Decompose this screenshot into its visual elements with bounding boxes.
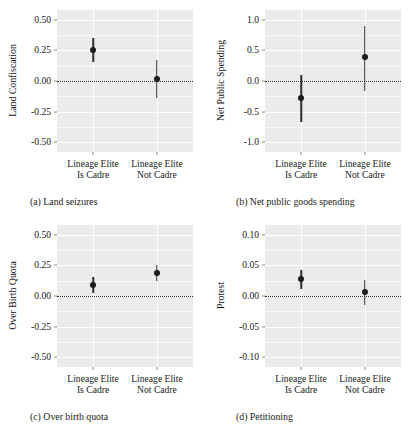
gridline-horizontal xyxy=(265,112,401,113)
y-axis-tick-label: 0.25 xyxy=(34,261,51,271)
gridline-horizontal xyxy=(57,235,193,236)
panel-background xyxy=(57,10,193,152)
y-axis-tick-label: 0.10 xyxy=(242,230,259,240)
y-axis-tick-label: -0.05 xyxy=(239,322,259,332)
plot-area-c: 0.500.250.00-0.25-0.50Over Birth QuotaLi… xyxy=(0,215,207,385)
x-axis-tick-label-2: Lineage EliteNot Cadre xyxy=(131,159,182,180)
x-axis-tick-label-line2: Is Cadre xyxy=(67,170,118,181)
y-axis-tick-mark xyxy=(54,296,57,297)
gridline-horizontal xyxy=(57,112,193,113)
x-axis-tick-label-2: Lineage EliteNot Cadre xyxy=(131,374,182,395)
gridline-horizontal xyxy=(265,327,401,328)
y-axis-tick-mark xyxy=(54,19,57,20)
panel-background xyxy=(265,10,401,152)
gridline-horizontal-minor xyxy=(265,250,401,251)
y-axis-tick-label: 0.0 xyxy=(247,76,259,86)
point-estimate-marker-1 xyxy=(298,95,304,101)
gridline-horizontal-minor xyxy=(57,342,193,343)
x-axis-tick-label-2: Lineage EliteNot Cadre xyxy=(339,374,390,395)
gridline-horizontal-minor xyxy=(265,281,401,282)
y-axis-tick-mark xyxy=(262,19,265,20)
figure-panel-grid: 0.500.250.00-0.25-0.50Land ConfiscationL… xyxy=(0,0,415,430)
y-axis-tick-label: -0.5 xyxy=(244,107,259,117)
y-axis-tick-mark xyxy=(54,111,57,112)
y-axis-tick-label: -0.10 xyxy=(239,352,259,362)
y-axis-tick-label: 0.5 xyxy=(247,46,259,56)
zero-reference-line xyxy=(265,296,401,297)
y-axis-tick-label: 0.00 xyxy=(242,291,259,301)
gridline-horizontal-minor xyxy=(57,35,193,36)
y-axis-title: Land Confiscation xyxy=(7,10,18,152)
x-axis-tick-label-line2: Not Cadre xyxy=(131,170,182,181)
x-axis-tick-label-line2: Not Cadre xyxy=(131,385,182,396)
plot-area-d: 0.100.050.00-0.05-0.10ProtestLineage Eli… xyxy=(208,215,415,385)
y-axis-tick-mark xyxy=(262,265,265,266)
panel-caption-d: (d) Petitioning xyxy=(236,411,293,422)
y-axis-tick-mark xyxy=(262,234,265,235)
y-axis-tick-mark xyxy=(54,50,57,51)
x-axis-tick-label-2: Lineage EliteNot Cadre xyxy=(339,159,390,180)
zero-reference-line xyxy=(57,81,193,82)
y-axis-tick-mark xyxy=(262,50,265,51)
y-axis-tick-mark xyxy=(54,142,57,143)
x-axis-tick-mark xyxy=(93,152,94,155)
gridline-horizontal xyxy=(57,50,193,51)
gridline-horizontal-minor xyxy=(57,281,193,282)
y-axis-tick-label: -0.50 xyxy=(31,137,51,147)
y-axis-tick-label: -1.0 xyxy=(244,137,259,147)
plot-area-a: 0.500.250.00-0.25-0.50Land ConfiscationL… xyxy=(0,0,207,170)
x-axis-tick-label-line2: Is Cadre xyxy=(67,385,118,396)
gridline-horizontal xyxy=(265,50,401,51)
chart-panel-c: 0.500.250.00-0.25-0.50Over Birth QuotaLi… xyxy=(0,215,207,430)
point-estimate-marker-2 xyxy=(362,289,368,295)
x-axis-tick-mark xyxy=(364,367,365,370)
point-estimate-marker-2 xyxy=(362,54,368,60)
x-axis-tick-label-1: Lineage EliteIs Cadre xyxy=(275,374,326,395)
y-axis-tick-label: 0.05 xyxy=(242,261,259,271)
zero-reference-line xyxy=(57,296,193,297)
y-axis-tick-mark xyxy=(54,357,57,358)
y-axis-tick-mark xyxy=(262,326,265,327)
x-axis-tick-label-1: Lineage EliteIs Cadre xyxy=(275,159,326,180)
y-axis-tick-label: 0.00 xyxy=(34,291,51,301)
y-axis-tick-label: 0.50 xyxy=(34,230,51,240)
x-axis-tick-mark xyxy=(156,367,157,370)
x-axis-tick-mark xyxy=(93,367,94,370)
panel-caption-b: (b) Net public goods spending xyxy=(236,196,355,207)
x-axis-tick-label-line2: Is Cadre xyxy=(275,170,326,181)
gridline-horizontal xyxy=(57,357,193,358)
gridline-horizontal-minor xyxy=(57,66,193,67)
y-axis-tick-label: 0.00 xyxy=(34,76,51,86)
gridline-horizontal xyxy=(265,357,401,358)
x-axis-tick-mark xyxy=(364,152,365,155)
y-axis-tick-label: 0.50 xyxy=(34,15,51,25)
gridline-horizontal xyxy=(57,20,193,21)
panel-background xyxy=(57,225,193,367)
x-axis-tick-mark xyxy=(301,367,302,370)
y-axis-title: Net Public Spending xyxy=(215,10,226,152)
y-axis-title: Over Birth Quota xyxy=(7,225,18,367)
gridline-horizontal xyxy=(265,142,401,143)
gridline-horizontal xyxy=(265,20,401,21)
x-axis-tick-label-line2: Is Cadre xyxy=(275,385,326,396)
gridline-horizontal-minor xyxy=(57,311,193,312)
y-axis-tick-label: 1.0 xyxy=(247,15,259,25)
y-axis-tick-mark xyxy=(54,326,57,327)
gridline-horizontal-minor xyxy=(265,96,401,97)
gridline-horizontal-minor xyxy=(265,66,401,67)
y-axis-tick-label: 0.25 xyxy=(34,46,51,56)
zero-reference-line xyxy=(265,81,401,82)
gridline-horizontal-minor xyxy=(57,127,193,128)
y-axis-tick-mark xyxy=(54,234,57,235)
panel-background xyxy=(265,225,401,367)
chart-panel-b: 1.00.50.0-0.5-1.0Net Public SpendingLine… xyxy=(208,0,415,215)
y-axis-tick-mark xyxy=(54,265,57,266)
y-axis-title: Protest xyxy=(215,225,226,367)
y-axis-tick-label: -0.50 xyxy=(31,352,51,362)
y-axis-tick-mark xyxy=(262,296,265,297)
gridline-horizontal xyxy=(57,142,193,143)
point-estimate-marker-1 xyxy=(90,282,96,288)
point-estimate-marker-1 xyxy=(298,276,304,282)
gridline-horizontal-minor xyxy=(265,311,401,312)
x-axis-tick-mark xyxy=(301,152,302,155)
